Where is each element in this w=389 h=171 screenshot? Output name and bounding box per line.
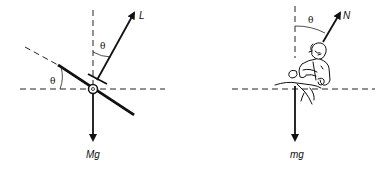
theta-bank: θ: [50, 76, 55, 86]
cyclist-figure-icon: [275, 43, 330, 104]
normal-label: N: [343, 10, 351, 21]
theta-vertical: θ: [100, 41, 105, 51]
angle-arc-vertical: [295, 26, 325, 33]
angle-arc-bank: [60, 67, 62, 89]
force-diagrams: L θ θ Mg θ N mg: [0, 0, 389, 171]
normal-arrow: [323, 13, 340, 42]
angle-arc-vertical: [93, 52, 111, 57]
theta-vertical: θ: [308, 15, 313, 25]
weight-label: mg: [290, 149, 304, 160]
cyclist-diagram: θ N mg: [232, 6, 375, 160]
airplane-diagram: L θ θ Mg: [20, 10, 165, 160]
fuselage-icon: [89, 85, 98, 94]
lift-label: L: [139, 10, 145, 21]
wing-axis-dashed: [25, 47, 58, 65]
weight-label: Mg: [86, 149, 100, 160]
